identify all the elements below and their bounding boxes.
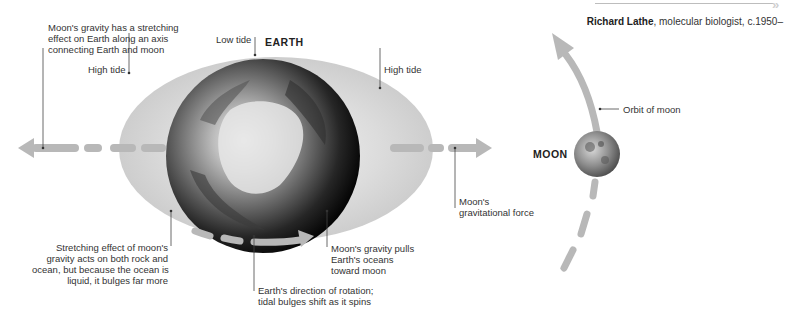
label-line: effect on Earth along an axis: [48, 33, 179, 44]
label-line: toward moon: [331, 265, 414, 276]
label-line: Moon's gravity pulls: [331, 243, 414, 254]
label-line: Earth's direction of rotation;: [258, 285, 373, 296]
label-line: ocean, but because the ocean is: [32, 264, 168, 275]
arrowhead-right-icon: [476, 138, 492, 158]
arrowhead-left-icon: [18, 138, 34, 158]
label-high-tide-right: High tide: [384, 64, 422, 75]
moon-body: [574, 131, 620, 177]
tides-diagram: » Richard Lathe, molecular biologist, c.…: [0, 0, 797, 321]
label-orbit-of-moon: Orbit of moon: [623, 104, 681, 115]
label-line: Stretching effect of moon's: [32, 242, 168, 253]
label-line: Moon's: [459, 196, 534, 207]
label-line: Moon's gravity has a stretching: [48, 22, 179, 33]
label-line: connecting Earth and moon: [48, 44, 179, 55]
label-grav-force: Moon's gravitational force: [459, 196, 534, 218]
label-line: gravitational force: [459, 207, 534, 218]
label-stretch-axis: Moon's gravity has a stretching effect o…: [48, 22, 179, 55]
moon-title: MOON: [533, 148, 568, 160]
label-line: liquid, it bulges far more: [32, 275, 168, 286]
label-line: gravity acts on both rock and: [32, 253, 168, 264]
label-rotation: Earth's direction of rotation; tidal bul…: [258, 285, 373, 307]
label-low-tide: Low tide: [216, 34, 251, 45]
label-stretching-effect: Stretching effect of moon's gravity acts…: [32, 242, 168, 286]
earth-title: EARTH: [265, 36, 304, 48]
label-line: tidal bulges shift as it spins: [258, 296, 373, 307]
label-high-tide-left: High tide: [88, 64, 126, 75]
earth-globe: [166, 59, 360, 253]
label-line: Earth's oceans: [331, 254, 414, 265]
label-pulls-oceans: Moon's gravity pulls Earth's oceans towa…: [331, 243, 414, 276]
